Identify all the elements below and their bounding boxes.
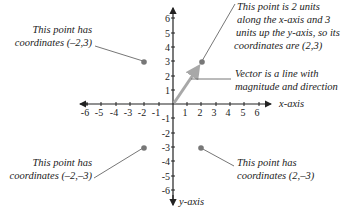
svg-text:1: 1	[183, 107, 188, 118]
x-tick-labels: -6 -5 -4 -3 -2 -1 1 2 3 4 5 6	[81, 107, 260, 118]
vector-arrow	[174, 69, 197, 103]
y-axis-label: y-axis	[178, 196, 204, 207]
svg-text:5: 5	[241, 107, 246, 118]
svg-text:2: 2	[165, 71, 170, 82]
point-2-neg3	[198, 145, 204, 151]
x-axis-label: x-axis	[278, 98, 304, 109]
svg-text:coordinates are (2,3): coordinates are (2,3)	[234, 40, 323, 52]
svg-text:2: 2	[198, 107, 203, 118]
svg-text:1: 1	[165, 85, 170, 96]
svg-text:-1: -1	[152, 107, 160, 118]
svg-text:5: 5	[165, 28, 170, 39]
svg-text:Vector is a line with: Vector is a line with	[235, 68, 318, 79]
annotation-bottom-left: This point has coordinates (–2,–3)	[10, 157, 93, 182]
svg-text:-6: -6	[162, 185, 170, 196]
svg-text:-2: -2	[138, 107, 146, 118]
svg-text:coordinates (–2,3): coordinates (–2,3)	[15, 37, 93, 49]
svg-text:6: 6	[255, 107, 260, 118]
svg-text:-6: -6	[81, 107, 89, 118]
svg-text:coordinates (2,–3): coordinates (2,–3)	[237, 170, 315, 182]
svg-text:-5: -5	[162, 171, 170, 182]
svg-text:-5: -5	[95, 107, 103, 118]
svg-text:-3: -3	[124, 107, 132, 118]
svg-text:coordinates (–2,–3): coordinates (–2,–3)	[10, 170, 93, 182]
svg-text:This point is 2 units: This point is 2 units	[237, 1, 320, 12]
svg-text:-1: -1	[162, 113, 170, 124]
point-neg2-neg3	[141, 145, 147, 151]
coordinate-plane-diagram: -6 -5 -4 -3 -2 -1 1 2 3 4 5 6 6 5 4 3 2 …	[0, 0, 347, 209]
svg-text:-4: -4	[110, 107, 118, 118]
annotation-top-right: This point is 2 units along the x-axis a…	[234, 1, 340, 52]
svg-text:-2: -2	[162, 128, 170, 139]
svg-text:-3: -3	[162, 142, 170, 153]
annotation-vector: Vector is a line with magnitude and dire…	[235, 68, 338, 92]
svg-text:units up the y-axis, so its: units up the y-axis, so its	[236, 27, 340, 38]
svg-text:6: 6	[165, 13, 170, 24]
svg-text:This point has: This point has	[32, 24, 92, 35]
svg-text:3: 3	[165, 56, 170, 67]
svg-text:along the x-axis and 3: along the x-axis and 3	[237, 14, 330, 25]
annotation-bottom-right: This point has coordinates (2,–3)	[237, 157, 315, 182]
point-2-3	[199, 59, 205, 65]
svg-text:4: 4	[165, 42, 170, 53]
svg-text:This point has: This point has	[237, 157, 297, 168]
svg-text:3: 3	[212, 107, 217, 118]
point-neg2-3	[141, 59, 147, 65]
svg-text:4: 4	[226, 107, 231, 118]
svg-text:This point has: This point has	[32, 157, 92, 168]
svg-text:magnitude and direction: magnitude and direction	[235, 81, 338, 92]
svg-text:-4: -4	[162, 156, 170, 167]
annotation-top-left: This point has coordinates (–2,3)	[15, 24, 93, 49]
